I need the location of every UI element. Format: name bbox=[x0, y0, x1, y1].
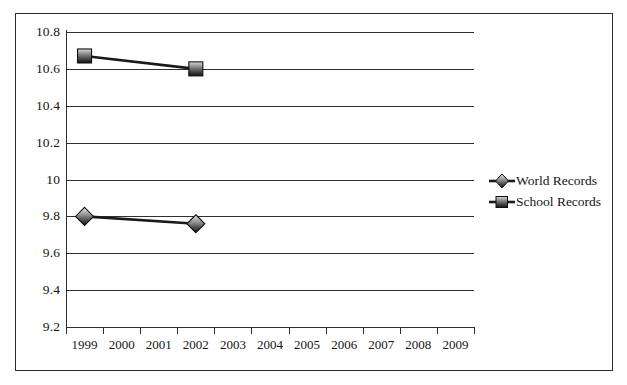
x-axis-tick bbox=[177, 327, 178, 334]
y-axis-tick-label: 10.6 bbox=[14, 62, 60, 76]
y-axis-tick-label: 9.2 bbox=[14, 320, 60, 334]
y-axis-tick-label: 9.8 bbox=[14, 210, 60, 224]
x-axis-tick bbox=[66, 327, 67, 334]
x-axis-tick-label: 2009 bbox=[433, 338, 477, 353]
x-axis-ticks bbox=[66, 327, 474, 335]
x-axis-tick bbox=[289, 327, 290, 334]
gridline bbox=[66, 143, 474, 144]
x-axis-labels: 1999200020012002200320042005200620072008… bbox=[66, 338, 474, 358]
legend-item-school-records[interactable]: School Records bbox=[489, 191, 614, 212]
y-axis-tick-label: 10.2 bbox=[14, 136, 60, 150]
gridline bbox=[66, 32, 474, 33]
x-axis-tick bbox=[251, 327, 252, 334]
gridline bbox=[66, 216, 474, 217]
x-axis-tick bbox=[474, 327, 475, 334]
gridline bbox=[66, 180, 474, 181]
x-axis-tick bbox=[437, 327, 438, 334]
gridline bbox=[66, 290, 474, 291]
chart-legend: World Records School Records bbox=[489, 170, 614, 214]
legend-label-school-records: School Records bbox=[516, 195, 601, 209]
x-axis-tick bbox=[400, 327, 401, 334]
gridline bbox=[66, 106, 474, 107]
x-axis-tick bbox=[214, 327, 215, 334]
y-axis-tick-label: 10.8 bbox=[14, 25, 60, 39]
y-axis-tick-label: 10.4 bbox=[14, 99, 60, 113]
x-axis-tick bbox=[140, 327, 141, 334]
diamond-marker-icon bbox=[489, 172, 515, 190]
gridline bbox=[66, 253, 474, 254]
y-axis-labels: 10.810.610.410.2109.89.69.49.2 bbox=[8, 32, 60, 327]
y-axis-tick-label: 10 bbox=[14, 173, 60, 187]
gridline bbox=[66, 69, 474, 70]
legend-label-world-records: World Records bbox=[516, 174, 597, 188]
plot-area bbox=[66, 32, 474, 327]
square-marker-icon bbox=[489, 193, 515, 211]
x-axis-tick bbox=[326, 327, 327, 334]
legend-item-world-records[interactable]: World Records bbox=[489, 170, 614, 191]
x-axis-tick bbox=[363, 327, 364, 334]
y-axis-tick-label: 9.4 bbox=[14, 283, 60, 297]
x-axis-tick bbox=[103, 327, 104, 334]
chart-page: 10.810.610.410.2109.89.69.49.2 199920002… bbox=[0, 0, 627, 385]
y-axis-tick-label: 9.6 bbox=[14, 247, 60, 261]
